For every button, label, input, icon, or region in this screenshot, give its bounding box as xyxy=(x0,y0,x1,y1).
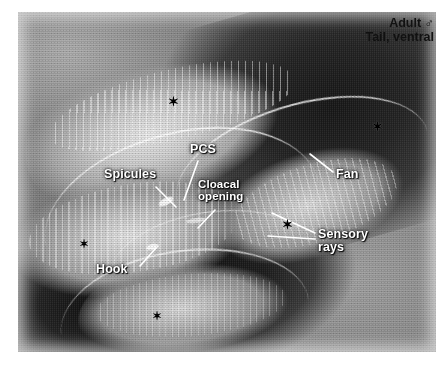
label-sensory-rays: Sensory rays xyxy=(318,228,368,255)
corner-caption: Adult ♂ Tail, ventral xyxy=(365,16,434,44)
corner-caption-line1: Adult ♂ xyxy=(365,16,434,30)
label-spicules: Spicules xyxy=(104,168,156,181)
asterisk-lower: ✶ xyxy=(152,310,162,322)
label-pcs: PCS xyxy=(190,143,216,156)
corner-caption-line2: Tail, ventral xyxy=(365,30,434,44)
micrograph-figure: SpiculesPCSCloacal openingFanSensory ray… xyxy=(0,0,448,374)
label-hook: Hook xyxy=(96,263,128,276)
asterisk-upper-left: ✶ xyxy=(168,95,179,108)
asterisk-center: ✶ xyxy=(282,218,293,231)
label-cloacal-opening: Cloacal opening xyxy=(198,178,243,202)
asterisk-mid-left: ✶ xyxy=(79,238,89,250)
label-fan: Fan xyxy=(336,168,359,181)
asterisk-upper-right: ✶ xyxy=(372,120,383,133)
